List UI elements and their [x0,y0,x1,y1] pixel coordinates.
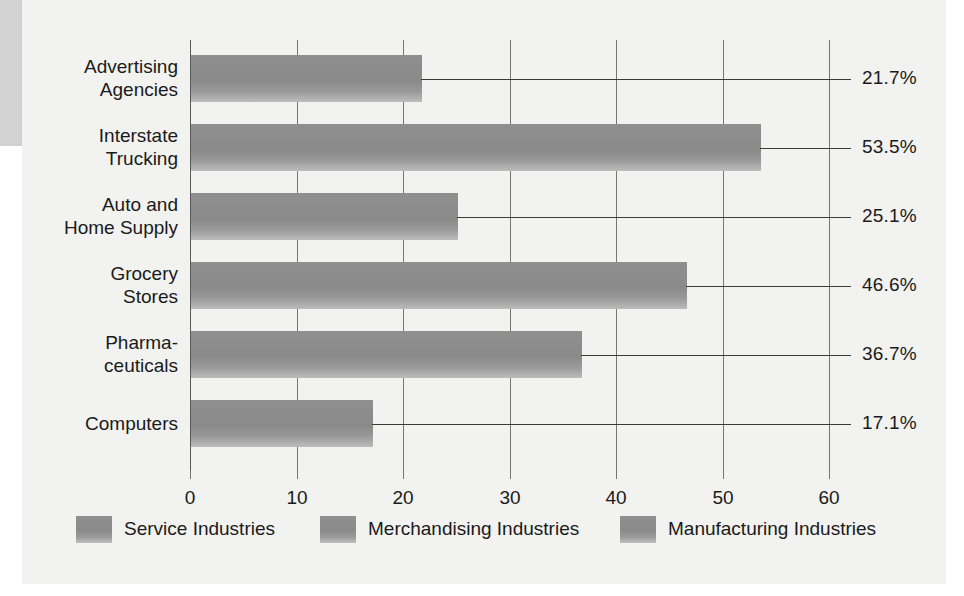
bar [191,55,422,102]
gridline-40 [616,40,617,470]
bar-value-label: 46.6% [862,274,917,296]
gridline-60 [829,40,830,470]
legend-label: Manufacturing Industries [668,516,876,542]
x-tick-mark-30 [510,470,511,479]
x-tick-label-0: 0 [170,487,210,509]
value-leader-line [581,355,851,356]
gridline-30 [510,40,511,470]
bar-value-label: 53.5% [862,136,917,158]
legend-label: Service Industries [124,516,275,542]
bar [191,193,458,240]
legend-swatch [76,516,112,543]
bar-value-label: 17.1% [862,412,917,434]
bar-value-label: 25.1% [862,205,917,227]
bar [191,400,373,447]
category-label: Auto and Home Supply [30,193,178,239]
bar [191,331,582,378]
x-tick-label-30: 30 [490,487,530,509]
x-tick-mark-10 [297,470,298,479]
bar [191,262,687,309]
category-label: Computers [30,412,178,435]
category-label: Interstate Trucking [30,124,178,170]
legend-swatch [620,516,656,543]
x-tick-mark-50 [723,470,724,479]
x-tick-mark-60 [829,470,830,479]
gridline-50 [723,40,724,470]
category-label: Advertising Agencies [30,55,178,101]
bar-value-label: 36.7% [862,343,917,365]
value-leader-line [760,148,851,149]
x-tick-mark-0 [190,470,191,479]
value-leader-line [421,79,851,80]
value-leader-line [686,286,851,287]
chart-figure: 010203040506021.7%Advertising Agencies53… [0,0,964,596]
gridline-20 [403,40,404,470]
x-tick-label-50: 50 [703,487,743,509]
legend-swatch [320,516,356,543]
x-tick-mark-20 [403,470,404,479]
chart-legend: Service IndustriesMerchandising Industri… [0,514,964,554]
plot-area: 010203040506021.7%Advertising Agencies53… [0,0,964,596]
bar-value-label: 21.7% [862,67,917,89]
value-leader-line [457,217,851,218]
category-label: Grocery Stores [30,262,178,308]
legend-label: Merchandising Industries [368,516,579,542]
value-leader-line [372,424,851,425]
x-tick-mark-40 [616,470,617,479]
x-tick-label-10: 10 [277,487,317,509]
x-tick-label-60: 60 [809,487,849,509]
x-tick-label-20: 20 [383,487,423,509]
x-tick-label-40: 40 [596,487,636,509]
category-label: Pharma- ceuticals [30,331,178,377]
bar [191,124,761,171]
